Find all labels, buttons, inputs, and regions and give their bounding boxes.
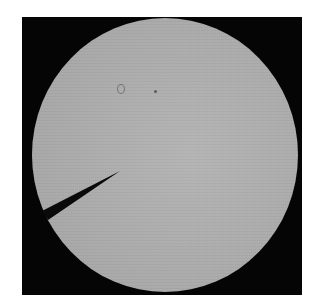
- microscope-frame: [22, 17, 302, 295]
- micropipette-needle: [22, 17, 302, 295]
